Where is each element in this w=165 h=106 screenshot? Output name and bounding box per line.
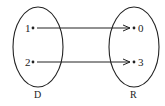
- range-label: R: [130, 89, 137, 100]
- domain-element-1: 1: [25, 22, 31, 34]
- range-dot-3: [133, 61, 136, 64]
- domain-element-2: 2: [25, 56, 31, 68]
- domain-dot-1: [32, 27, 35, 30]
- range-element-3: 3: [138, 56, 144, 68]
- mapping-diagram: 1 2 0 3 D R: [0, 0, 165, 106]
- domain-ellipse: [13, 7, 63, 87]
- range-ellipse: [109, 7, 159, 87]
- domain-dot-2: [32, 61, 35, 64]
- domain-label: D: [34, 89, 41, 100]
- range-dot-0: [133, 27, 136, 30]
- range-element-0: 0: [138, 22, 144, 34]
